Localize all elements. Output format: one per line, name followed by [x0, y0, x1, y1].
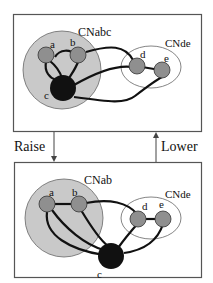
node-d [130, 211, 146, 227]
label-cnde-top: CNde [165, 37, 191, 49]
node-e [155, 211, 171, 227]
label-cnde-bottom: CNde [165, 188, 191, 200]
label-d-bottom: d [142, 200, 148, 212]
bottom-panel: CNab CNde a b c d e [15, 163, 202, 281]
lower-arrowhead-icon [153, 132, 159, 138]
node-c-master [50, 75, 76, 101]
label-b-top: b [70, 36, 76, 48]
raise-label: Raise [14, 139, 45, 154]
label-cnab: CNab [84, 173, 112, 187]
label-c-top: c [44, 89, 49, 101]
label-a-top: a [50, 38, 55, 50]
top-panel: CNabc CNde a b c d e [14, 15, 202, 132]
label-e-top: e [164, 52, 169, 64]
node-e [154, 62, 170, 78]
label-e-bottom: e [159, 198, 164, 210]
raise-arrowhead-icon [51, 156, 57, 162]
node-b [70, 47, 86, 63]
node-c-master [98, 243, 124, 269]
transition-arrows: Raise Lower [14, 132, 198, 162]
node-b [71, 196, 87, 212]
label-b-bottom: b [72, 186, 78, 198]
node-a [39, 196, 55, 212]
label-cnabc: CNabc [78, 25, 111, 39]
lower-label: Lower [161, 139, 198, 154]
label-d-top: d [140, 48, 146, 60]
cluster-diagram: CNabc CNde a b c d e Raise Lower [0, 0, 213, 283]
node-d [129, 58, 145, 74]
label-c-bottom: c [97, 268, 102, 280]
label-a-bottom: a [49, 186, 54, 198]
